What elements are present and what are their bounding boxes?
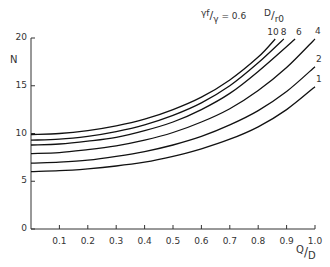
annotation-den: γ — [213, 14, 218, 24]
x-axis-title-num: Q — [296, 244, 304, 255]
y-tick-label: 20 — [5, 33, 27, 42]
x-tick-label: 0.2 — [76, 237, 100, 246]
series-label-2: 2 — [316, 55, 322, 64]
chart-canvas — [0, 0, 330, 267]
x-tick-label: 0.5 — [161, 237, 185, 246]
series-label-8: 8 — [281, 28, 287, 37]
y-tick-label: 0 — [5, 224, 27, 233]
y-tick-label: 10 — [5, 129, 27, 138]
curve-dr0-8 — [31, 39, 284, 140]
x-axis-title: Q/D — [296, 246, 316, 258]
x-tick-label: 0.6 — [189, 237, 213, 246]
annotation-gamma-ratio: γf/γ = 0.6 — [201, 10, 246, 21]
legend-num: D — [264, 8, 271, 18]
y-tick-label: 15 — [5, 81, 27, 90]
curve-dr0-1 — [31, 87, 315, 172]
series-label-1: 1 — [316, 75, 322, 84]
axes — [31, 38, 315, 229]
x-tick-label: 0.8 — [246, 237, 270, 246]
y-tick-label: 5 — [5, 176, 27, 185]
series-label-6: 6 — [296, 28, 302, 37]
curve-dr0-4 — [31, 39, 315, 154]
curves — [31, 39, 315, 172]
annotation-value: = 0.6 — [221, 11, 246, 21]
x-axis-title-den: D — [308, 250, 316, 261]
annotation-num: γf — [201, 8, 210, 18]
x-tick-label: 0.9 — [275, 237, 299, 246]
x-tick-label: 0.3 — [104, 237, 128, 246]
legend-title: D/r0 — [264, 10, 284, 21]
series-label-4: 4 — [315, 27, 321, 36]
series-label-10: 10 — [267, 28, 278, 37]
x-tick-label: 0.7 — [218, 237, 242, 246]
x-tick-label: 0.1 — [47, 237, 71, 246]
x-tick-label: 0.4 — [133, 237, 157, 246]
y-axis-title: N — [10, 55, 17, 65]
legend-den: r0 — [275, 14, 284, 24]
